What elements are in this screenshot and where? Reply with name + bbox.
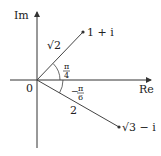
point-sqrt3-minus-i (117, 125, 120, 128)
modulus-label-2: 2 (70, 104, 77, 117)
origin-label: 0 (26, 82, 33, 95)
im-axis-label: Im (14, 9, 29, 22)
angle-den-4: 4 (64, 71, 69, 80)
angle-num-pi-4: π (64, 62, 69, 71)
angle-arc-minus-pi-over-6 (60, 80, 64, 93)
angle-den-6: 6 (78, 93, 83, 102)
angle-num-pi-6: π (78, 84, 83, 93)
complex-plane-diagram: Im Re 0 1 + i √2 π 4 √3 − i 2 − π 6 (0, 0, 161, 156)
point-1-plus-i (81, 30, 84, 33)
point-label-sqrt3-minus-i: √3 − i (122, 121, 156, 134)
re-axis-label: Re (139, 83, 154, 96)
modulus-label-sqrt2: √2 (47, 39, 61, 52)
point-label-1-plus-i: 1 + i (87, 26, 114, 39)
angle-arc-pi-over-4 (53, 64, 60, 80)
